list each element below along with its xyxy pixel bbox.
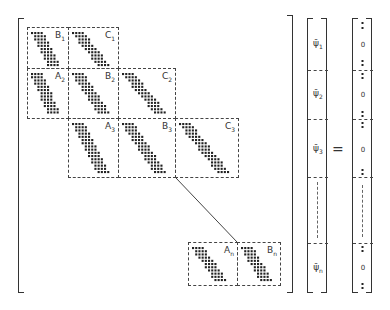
psi-separator <box>308 119 328 120</box>
matrix-block-bn: Bn <box>237 242 281 286</box>
psi-vector-right-bracket <box>321 18 327 293</box>
psi-separator <box>308 243 328 244</box>
psi-3-label: ψ̄3 <box>308 143 328 155</box>
psi-ellipsis-dash <box>317 182 318 238</box>
equals-sign: = <box>332 141 344 157</box>
psi-separator <box>308 70 328 71</box>
psi-separator <box>308 177 328 178</box>
psi-vector-left-bracket <box>307 18 313 293</box>
matrix-block-an: An <box>188 242 238 286</box>
psi-2-label: ψ̄2 <box>308 88 328 100</box>
block-label: Bn <box>267 245 277 257</box>
rhs-dot-markers <box>353 0 373 310</box>
block-label: An <box>224 245 234 257</box>
psi-1-label: ψ̄1 <box>308 38 328 50</box>
psi-n-label: ψ̄n <box>308 262 328 274</box>
